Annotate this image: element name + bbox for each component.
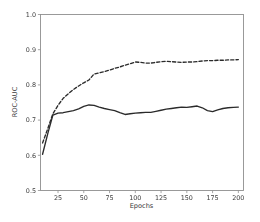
y-axis-title: ROC-AUC [11,86,19,117]
x-tick-label: 75 [105,194,113,202]
y-tick-label: 0.8 [26,81,36,89]
y-tick-label: 0.7 [26,116,36,124]
roc-auc-line-chart: 0.50.60.70.80.91.0 255075100125150175200… [0,0,260,222]
x-tick-label: 25 [54,194,62,202]
roc-auc-figure: 0.50.60.70.80.91.0 255075100125150175200… [0,0,260,222]
y-tick-label: 0.9 [26,46,36,54]
x-tick-label: 50 [80,194,88,202]
x-tick-label: 125 [155,194,167,202]
x-axis-title: Epochs [130,202,154,210]
chart-background [0,0,260,222]
x-tick-label: 200 [232,194,244,202]
y-tick-label: 0.5 [26,187,36,195]
x-tick-label: 100 [129,194,141,202]
x-tick-label: 150 [181,194,193,202]
x-tick-label: 175 [206,194,218,202]
y-tick-label: 0.6 [26,152,36,160]
y-tick-label: 1.0 [26,11,36,19]
